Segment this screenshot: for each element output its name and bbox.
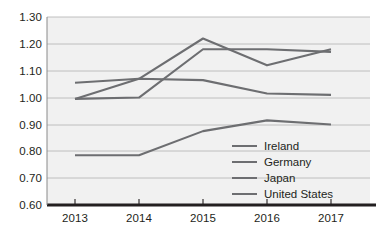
x-tick-label-2017: 2017 — [307, 212, 355, 224]
legend-label-ireland: Ireland — [264, 140, 299, 152]
y-tick-label-1-10: 1.10 — [4, 65, 42, 77]
y-tick-label-0-80: 0.80 — [4, 145, 42, 157]
legend-label-united-states: United States — [264, 188, 333, 200]
legend-item-japan: Japan — [232, 170, 362, 186]
legend-item-ireland: Ireland — [232, 138, 362, 154]
chart-legend: Ireland Germany Japan United States — [232, 138, 362, 202]
y-tick-label-1-20: 1.20 — [4, 38, 42, 50]
legend-swatch-germany — [232, 161, 257, 163]
y-tick-label-0-70: 0.70 — [4, 172, 42, 184]
legend-swatch-united-states — [232, 193, 257, 195]
legend-swatch-japan — [232, 177, 257, 179]
y-tick-label-0-60: 0.60 — [4, 199, 42, 211]
x-tick-label-2014: 2014 — [115, 212, 163, 224]
legend-item-germany: Germany — [232, 154, 362, 170]
legend-label-japan: Japan — [264, 172, 295, 184]
legend-label-germany: Germany — [264, 156, 311, 168]
chart-plot-svg — [0, 0, 391, 240]
y-tick-label-1-00: 1.00 — [4, 92, 42, 104]
x-tick-label-2015: 2015 — [179, 212, 227, 224]
line-chart-figure: 1.30 1.20 1.10 1.00 0.90 0.80 0.70 0.60 … — [0, 0, 391, 240]
legend-item-united-states: United States — [232, 186, 362, 202]
x-tick-label-2013: 2013 — [51, 212, 99, 224]
y-tick-label-1-30: 1.30 — [4, 11, 42, 23]
y-tick-label-0-90: 0.90 — [4, 119, 42, 131]
x-tick-label-2016: 2016 — [243, 212, 291, 224]
legend-swatch-ireland — [232, 145, 257, 147]
